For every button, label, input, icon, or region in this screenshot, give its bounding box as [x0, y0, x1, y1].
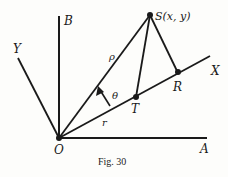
label-O: O — [54, 143, 64, 157]
label-r: r — [102, 117, 108, 128]
diagram-svg: B Y X A O S(x, y) T R ρ θ r Fig. 30 — [0, 0, 228, 177]
label-R: R — [172, 80, 182, 94]
label-X: X — [210, 64, 220, 78]
point-R — [175, 69, 181, 75]
point-T — [133, 94, 139, 100]
segment-SR — [150, 15, 178, 73]
label-A: A — [199, 142, 209, 156]
point-O — [56, 135, 62, 141]
axis-OY — [18, 58, 59, 138]
theta-arrow-icon — [96, 86, 110, 106]
figure-caption: Fig. 30 — [98, 156, 126, 167]
label-rho: ρ — [108, 51, 115, 62]
segment-ST — [136, 15, 150, 97]
label-T: T — [131, 102, 140, 116]
label-B: B — [63, 14, 73, 28]
label-Y: Y — [13, 42, 22, 56]
point-S — [147, 12, 153, 18]
figure-30-diagram: B Y X A O S(x, y) T R ρ θ r Fig. 30 — [0, 0, 228, 177]
label-theta: θ — [112, 90, 118, 101]
label-S: S(x, y) — [155, 10, 191, 23]
